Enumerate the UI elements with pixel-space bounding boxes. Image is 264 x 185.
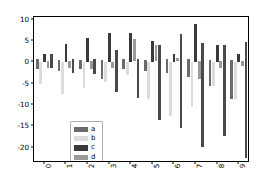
x-axis: 0123456789 bbox=[33, 162, 249, 185]
bar bbox=[86, 38, 89, 63]
bar bbox=[212, 62, 215, 85]
bar bbox=[68, 61, 71, 68]
legend-swatch bbox=[74, 136, 88, 141]
bar bbox=[245, 42, 248, 158]
bar bbox=[122, 59, 125, 69]
bar bbox=[83, 62, 86, 88]
y-tick-label: -5 bbox=[22, 78, 29, 87]
bar bbox=[223, 45, 226, 135]
bar bbox=[133, 39, 136, 61]
y-tick-label: -10 bbox=[18, 100, 29, 109]
bar bbox=[209, 60, 212, 86]
bar bbox=[187, 59, 190, 77]
bar bbox=[216, 45, 219, 62]
y-tick-label: 5 bbox=[25, 36, 29, 45]
bar bbox=[108, 33, 111, 62]
bar bbox=[72, 59, 75, 73]
bar bbox=[230, 60, 233, 98]
bar bbox=[126, 62, 129, 75]
bar bbox=[79, 60, 82, 69]
bar bbox=[104, 62, 107, 81]
x-tick-mark bbox=[87, 162, 88, 165]
bar bbox=[115, 50, 118, 93]
bar bbox=[93, 59, 96, 73]
legend-label: d bbox=[91, 154, 95, 161]
x-tick-label: 1 bbox=[65, 163, 74, 168]
x-tick-label: 6 bbox=[173, 163, 182, 168]
x-tick-mark bbox=[238, 162, 239, 165]
x-tick-label: 0 bbox=[44, 163, 53, 168]
x-tick-label: 9 bbox=[238, 163, 247, 168]
bar bbox=[166, 59, 169, 73]
legend-label: b bbox=[91, 135, 95, 142]
bar bbox=[50, 54, 53, 68]
bar bbox=[201, 43, 204, 147]
y-axis: 1050-5-10-15-20 bbox=[0, 16, 33, 162]
x-tick-mark bbox=[65, 162, 66, 165]
y-tick-label: 10 bbox=[20, 14, 29, 23]
bar bbox=[191, 62, 194, 107]
x-tick-mark bbox=[173, 162, 174, 165]
x-tick-mark bbox=[130, 162, 131, 165]
bar bbox=[169, 62, 172, 115]
bar bbox=[65, 44, 68, 62]
legend-item: b bbox=[74, 134, 99, 143]
bar bbox=[241, 61, 244, 66]
legend-label: a bbox=[91, 126, 95, 133]
bar bbox=[234, 62, 237, 98]
chart-figure: 1050-5-10-15-20 abcde 0123456789 bbox=[0, 0, 264, 185]
chart-legend: abcde bbox=[70, 121, 103, 162]
bar bbox=[219, 61, 222, 67]
bar bbox=[158, 45, 161, 119]
bar bbox=[176, 58, 179, 61]
bar bbox=[58, 60, 61, 71]
x-tick-mark bbox=[151, 162, 152, 165]
bar bbox=[155, 45, 158, 62]
x-tick-label: 3 bbox=[109, 163, 118, 168]
y-tick-label: -15 bbox=[18, 121, 29, 130]
x-tick-mark bbox=[43, 162, 44, 165]
x-tick-label: 7 bbox=[195, 163, 204, 168]
bar bbox=[198, 61, 201, 79]
bar bbox=[101, 60, 104, 80]
legend-swatch bbox=[74, 145, 88, 150]
legend-item: a bbox=[74, 125, 99, 134]
legend-item: c bbox=[74, 143, 99, 152]
bar bbox=[173, 54, 176, 63]
bar bbox=[61, 62, 64, 95]
x-tick-mark bbox=[108, 162, 109, 165]
legend-item: d bbox=[74, 153, 99, 162]
y-tick-label: -20 bbox=[18, 142, 29, 151]
bar bbox=[151, 41, 154, 62]
bar bbox=[137, 59, 140, 98]
bar bbox=[180, 34, 183, 128]
x-tick-mark bbox=[195, 162, 196, 165]
legend-swatch bbox=[74, 127, 88, 132]
bar bbox=[129, 33, 132, 62]
bar bbox=[194, 24, 197, 62]
bar bbox=[43, 54, 46, 63]
legend-swatch bbox=[74, 155, 88, 160]
bar bbox=[90, 61, 93, 69]
x-tick-label: 4 bbox=[130, 163, 139, 168]
y-tick-label: 0 bbox=[25, 57, 29, 66]
bar bbox=[47, 61, 50, 68]
x-tick-mark bbox=[216, 162, 217, 165]
x-tick-label: 8 bbox=[217, 163, 226, 168]
bar bbox=[144, 60, 147, 71]
bar bbox=[39, 62, 42, 83]
legend-label: c bbox=[91, 144, 95, 151]
bar bbox=[111, 62, 114, 68]
bar bbox=[237, 54, 240, 63]
x-tick-label: 5 bbox=[152, 163, 161, 168]
x-tick-label: 2 bbox=[87, 163, 96, 168]
bar bbox=[147, 62, 150, 98]
bar bbox=[36, 59, 39, 68]
plot-area: abcde bbox=[33, 16, 249, 162]
